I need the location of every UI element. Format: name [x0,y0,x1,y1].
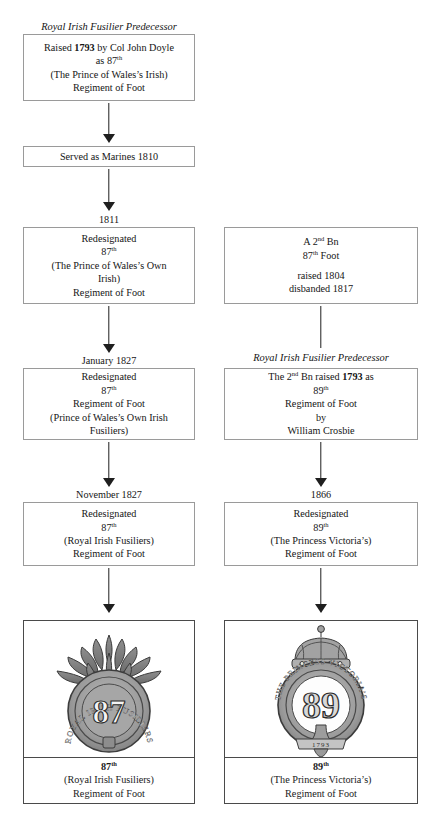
badge-caption-line: (The Princess Victoria’s) [227,773,415,786]
node-line: (Royal Irish Fusiliers) [27,534,191,547]
node-2nd-battalion-87th: A 2nd Bn 87th Foot raised 1804 disbanded… [224,227,418,304]
left-predecessor-header: Royal Irish Fusilier Predecessor [23,21,195,33]
node-line: Served as Marines 1810 [27,150,191,163]
left-date-november-1827: November 1827 [23,489,195,501]
node-line: 87th [27,521,191,534]
badge-caption-line: Regiment of Foot [26,787,192,800]
right-date-1866: 1866 [224,489,418,501]
node-line: Regiment of Foot [27,286,191,299]
badge-caption-line: Regiment of Foot [227,787,415,800]
node-line: 89th [228,521,414,534]
badge-caption-89th: 89th (The Princess Victoria’s) Regiment … [225,757,417,803]
badge-caption-87th: 87th (Royal Irish Fusiliers) Regiment of… [24,757,194,803]
node-line: William Crosbie [228,424,414,437]
badge-caption-number: 89th [227,760,415,773]
node-line: as 87th [27,54,191,67]
right-predecessor-header: Royal Irish Fusilier Predecessor [224,352,418,364]
svg-text:89: 89 [302,684,340,726]
node-1866-princess-victorias: Redesignated 89th (The Princess Victoria… [224,502,418,566]
node-line: Regiment of Foot [228,547,414,560]
node-raised-1793-87th: Raised 1793 by Col John Doyle as 87th (T… [23,34,195,101]
grenade-badge-87th-icon: ROYAL IRISH FUSILIERS 87 [24,621,194,757]
node-line: (The Prince of Wales’s Irish) [27,68,191,81]
node-line: by [228,411,414,424]
node-line: (The Princess Victoria’s) [228,534,414,547]
badge-caption-line: (Royal Irish Fusiliers) [26,773,192,786]
node-2nd-bn-raised-1793-89th: The 2nd Bn raised 1793 as 89th Regiment … [224,368,418,440]
node-line: (The Prince of Wales’s Own [27,259,191,272]
crowned-garter-badge-89th-icon: THE PRINCESS VICTORIA’S 89 1793 [225,621,417,757]
node-line: Raised 1793 by Col John Doyle [27,41,191,54]
node-line: (Prince of Wales’s Own Irish [27,411,191,424]
node-line: 89th [228,384,414,397]
left-date-january-1827: January 1827 [23,355,195,367]
node-line: 87th Foot [228,249,414,262]
svg-text:87: 87 [93,694,126,730]
node-line: Regiment of Foot [228,397,414,410]
node-line: Regiment of Foot [27,547,191,560]
node-line: raised 1804 [228,269,414,282]
badge-caption-number: 87th [26,760,192,773]
node-spacer [228,262,414,269]
node-line: Redesignated [27,370,191,383]
node-line: 87th [27,245,191,258]
node-line: 87th [27,384,191,397]
node-1811-redesignated-87th: Redesignated 87th (The Prince of Wales’s… [23,227,195,304]
node-line: Regiment of Foot [27,81,191,94]
svg-text:1793: 1793 [312,741,330,749]
node-jan-1827-redesignated-87th: Redesignated 87th Regiment of Foot (Prin… [23,368,195,440]
node-served-as-marines: Served as Marines 1810 [23,146,195,167]
node-line: Fusiliers) [27,424,191,437]
badge-plate-89th: THE PRINCESS VICTORIA’S 89 1793 89th (Th… [224,620,418,804]
badge-plate-87th: ROYAL IRISH FUSILIERS 87 87th (Royal Iri… [23,620,195,804]
lineage-chart: Royal Irish Fusilier Predecessor Raised … [0,0,428,828]
left-date-1811: 1811 [23,214,195,226]
node-line: disbanded 1817 [228,282,414,295]
node-line: Redesignated [27,507,191,520]
node-line: Redesignated [228,507,414,520]
node-line: Irish) [27,272,191,285]
node-nov-1827-royal-irish-fusiliers: Redesignated 87th (Royal Irish Fusiliers… [23,502,195,566]
node-line: Redesignated [27,232,191,245]
node-line: A 2nd Bn [228,235,414,248]
node-line: The 2nd Bn raised 1793 as [228,370,414,383]
node-line: Regiment of Foot [27,397,191,410]
